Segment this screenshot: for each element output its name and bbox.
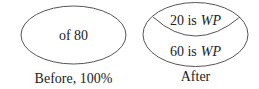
after-bottom-label: 60 isWP (170, 44, 222, 59)
after-bottom-number: 60 is (170, 44, 197, 59)
after-top-number: 20 is (170, 13, 197, 28)
after-group: 20 isWP 60 isWP After (143, 3, 248, 85)
after-bottom-var: WP (201, 44, 222, 59)
after-top-label: 20 isWP (170, 13, 222, 28)
before-group: of 80 Before, 100% (21, 6, 126, 86)
before-label: of 80 (59, 28, 88, 43)
before-after-diagram: of 80 Before, 100% 20 isWP 60 isWP After (0, 0, 259, 89)
after-caption: After (181, 69, 211, 84)
before-caption: Before, 100% (35, 71, 113, 86)
after-top-var: WP (201, 13, 222, 28)
